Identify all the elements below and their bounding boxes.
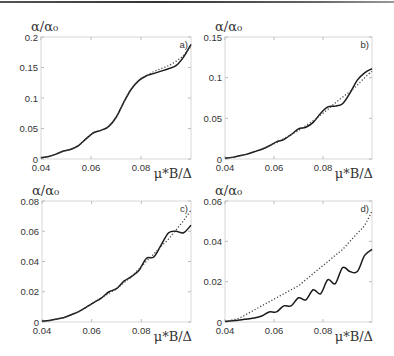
solid-curve xyxy=(225,249,372,321)
y-tick-label: 0.15 xyxy=(20,62,39,73)
x-axis-label: μ*B/Δ xyxy=(335,329,373,344)
panel-label: a) xyxy=(180,39,188,50)
x-tick-label: 0.04 xyxy=(33,325,52,336)
y-tick-label: 0.02 xyxy=(204,276,223,287)
x-tick-label: 0.04 xyxy=(216,325,235,336)
panel-label: d) xyxy=(361,203,369,214)
x-tick-label: 0.04 xyxy=(216,162,235,173)
x-axis-label: μ*B/Δ xyxy=(335,166,373,181)
x-tick-label: 0.08 xyxy=(314,325,333,336)
y-tick-label: 0.02 xyxy=(21,286,40,297)
axes-box xyxy=(41,37,191,159)
panel-label: c) xyxy=(180,203,188,214)
y-tick-label: 0.05 xyxy=(204,113,223,124)
x-tick-label: 0.04 xyxy=(32,162,51,173)
axes-box xyxy=(225,201,372,322)
figure-canvas: 00.050.10.150.20.040.060.08α/α₀μ*B/Δa) 0… xyxy=(0,0,394,356)
x-tick-label: 0.08 xyxy=(314,162,333,173)
panel-label: b) xyxy=(361,39,369,50)
y-tick-label: 0.04 xyxy=(21,256,40,267)
subplot-a: 00.050.10.150.20.040.060.08α/α₀μ*B/Δa) xyxy=(20,19,193,181)
x-tick-label: 0.08 xyxy=(132,162,151,173)
y-axis-label: α/α₀ xyxy=(31,19,58,34)
x-tick-label: 0.06 xyxy=(82,162,101,173)
x-tick-label: 0.06 xyxy=(265,162,284,173)
y-tick-label: 0.1 xyxy=(209,72,222,83)
dotted-curve xyxy=(42,210,191,321)
axes-box xyxy=(42,201,191,322)
subplot-c: 00.020.040.060.080.040.060.08α/α₀μ*B/Δc) xyxy=(21,183,193,344)
dotted-curve xyxy=(225,211,372,321)
x-axis-label: μ*B/Δ xyxy=(154,166,192,181)
x-axis-label: μ*B/Δ xyxy=(154,329,192,344)
dotted-curve xyxy=(41,46,191,158)
x-tick-label: 0.06 xyxy=(82,325,101,336)
x-tick-label: 0.06 xyxy=(265,325,284,336)
subplot-d: 00.020.040.060.040.060.08α/α₀μ*B/Δd) xyxy=(204,183,374,344)
dotted-curve xyxy=(225,71,372,158)
y-axis-label: α/α₀ xyxy=(215,183,242,198)
y-tick-label: 0.05 xyxy=(20,123,39,134)
axes-box xyxy=(225,37,372,159)
x-tick-label: 0.08 xyxy=(132,325,151,336)
y-axis-label: α/α₀ xyxy=(32,183,59,198)
y-axis-label: α/α₀ xyxy=(215,19,242,34)
y-tick-label: 0.1 xyxy=(25,93,38,104)
y-tick-label: 0.06 xyxy=(21,226,40,237)
solid-curve xyxy=(225,69,372,158)
subplot-b: 00.050.10.150.040.060.08α/α₀μ*B/Δb) xyxy=(204,19,374,181)
y-tick-label: 0.04 xyxy=(204,236,223,247)
solid-curve xyxy=(41,44,191,157)
